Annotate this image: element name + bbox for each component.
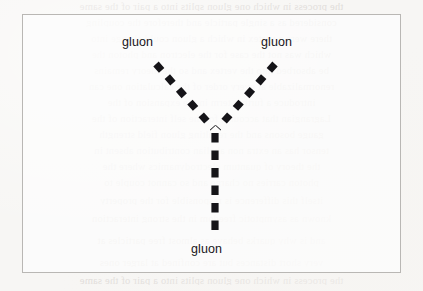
scanned-page: the process in which one gluon splits in… <box>0 0 423 291</box>
bleed-line: the process in which one gluon splits in… <box>0 276 423 285</box>
figure-frame-border <box>22 14 401 273</box>
bleed-line: the process in which one gluon splits in… <box>0 2 423 11</box>
gluon-label-bottom: gluon <box>191 242 222 256</box>
gluon-label-upper-left: gluon <box>122 35 153 49</box>
gluon-label-upper-right: gluon <box>261 35 292 49</box>
